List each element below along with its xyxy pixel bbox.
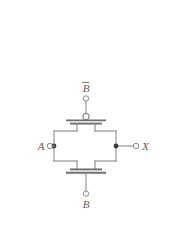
transmission-gate-schematic: B A X B: [0, 0, 170, 227]
label-input: A: [37, 140, 45, 152]
input-path: [47, 131, 77, 161]
label-control-complement-text: B: [83, 82, 90, 94]
output-path: [95, 131, 139, 161]
label-control-complement: B: [82, 82, 89, 94]
label-control-true: B: [83, 198, 90, 210]
junction-dot-output: [114, 144, 119, 149]
figure-root: B A X B: [0, 0, 170, 227]
terminal-ring-control-bottom[interactable]: [83, 191, 88, 196]
terminal-ring-output[interactable]: [133, 143, 138, 148]
pmos-transistor: [66, 114, 106, 132]
pmos-gate-bubble-icon: [83, 114, 89, 120]
control-bottom-branch: [83, 173, 88, 196]
control-top-branch: [83, 96, 88, 114]
label-output: X: [141, 140, 150, 152]
nmos-transistor: [66, 161, 106, 173]
terminal-ring-control-top[interactable]: [83, 96, 88, 101]
